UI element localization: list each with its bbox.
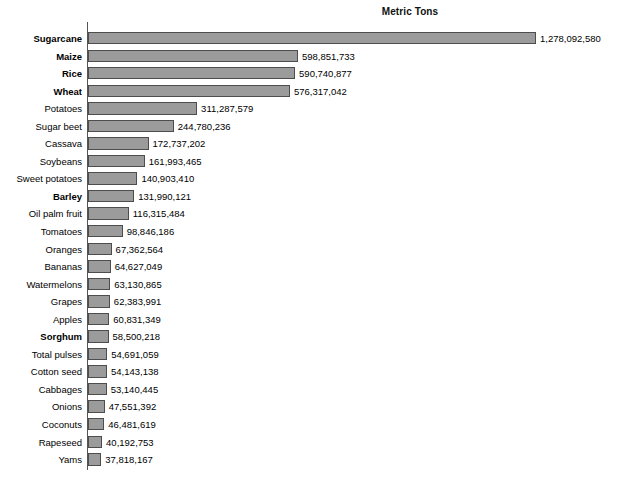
bar-value-label: 311,287,579 <box>201 102 253 115</box>
bar <box>88 436 102 448</box>
bar-value-label: 576,317,042 <box>294 85 347 98</box>
bar-row: Bananas64,627,049 <box>0 259 620 277</box>
bar <box>88 172 137 184</box>
bar-row: Apples60,831,349 <box>0 312 620 330</box>
bar-row: Onions47,551,392 <box>0 399 620 417</box>
bar-row: Tomatoes98,846,186 <box>0 224 620 242</box>
category-label: Sugarcane <box>0 32 82 45</box>
bar-row: Cotton seed54,143,138 <box>0 364 620 382</box>
bar <box>88 243 112 255</box>
bar <box>88 383 107 395</box>
bar-row: Rapeseed40,192,753 <box>0 435 620 453</box>
bar <box>88 295 110 307</box>
bar-row: Rice590,740,877 <box>0 66 620 84</box>
bar-value-label: 40,192,753 <box>106 436 154 449</box>
bar-row: Oranges67,362,564 <box>0 242 620 260</box>
category-label: Soybeans <box>0 155 82 168</box>
bar-row: Sorghum58,500,218 <box>0 329 620 347</box>
bar-row: Watermelons63,130,865 <box>0 277 620 295</box>
category-label: Barley <box>0 190 82 203</box>
category-label: Cabbages <box>0 383 82 396</box>
bar-row: Sweet potatoes140,903,410 <box>0 171 620 189</box>
bar-value-label: 54,691,059 <box>111 348 159 361</box>
bar-value-label: 1,278,092,580 <box>540 32 601 45</box>
bar-row: Coconuts46,481,619 <box>0 417 620 435</box>
bar <box>88 85 290 97</box>
bar-row: Sugar beet244,780,236 <box>0 119 620 137</box>
bar-value-label: 131,990,121 <box>138 190 191 203</box>
bar-value-label: 598,851,733 <box>302 50 355 63</box>
category-label: Yams <box>0 453 82 466</box>
plot-area: Sugarcane1,278,092,580Maize598,851,733Ri… <box>0 31 620 470</box>
bar-row: Barley131,990,121 <box>0 189 620 207</box>
category-label: Cotton seed <box>0 365 82 378</box>
chart-title: Metric Tons <box>300 6 520 17</box>
category-label: Rice <box>0 67 82 80</box>
category-label: Oranges <box>0 243 82 256</box>
bar-value-label: 172,737,202 <box>153 137 206 150</box>
category-label: Sorghum <box>0 330 82 343</box>
bar <box>88 190 134 202</box>
bar-value-label: 58,500,218 <box>113 330 161 343</box>
category-label: Wheat <box>0 85 82 98</box>
bar <box>88 102 197 114</box>
bar-row: Wheat576,317,042 <box>0 84 620 102</box>
bar <box>88 348 107 360</box>
bar-value-label: 53,140,445 <box>111 383 159 396</box>
bar-value-label: 98,846,186 <box>127 225 175 238</box>
category-label: Apples <box>0 313 82 326</box>
category-label: Watermelons <box>0 278 82 291</box>
bar-value-label: 140,903,410 <box>141 172 194 185</box>
bar <box>88 453 101 465</box>
bar-value-label: 590,740,877 <box>299 67 352 80</box>
category-label: Oil palm fruit <box>0 207 82 220</box>
bar-value-label: 60,831,349 <box>113 313 161 326</box>
bar-row: Cassava172,737,202 <box>0 136 620 154</box>
bar-row: Cabbages53,140,445 <box>0 382 620 400</box>
bar <box>88 400 105 412</box>
bar <box>88 278 110 290</box>
bar <box>88 155 145 167</box>
bar-row: Oil palm fruit116,315,484 <box>0 206 620 224</box>
bar-row: Yams37,818,167 <box>0 452 620 470</box>
bar-row: Maize598,851,733 <box>0 49 620 67</box>
category-label: Sweet potatoes <box>0 172 82 185</box>
bar <box>88 260 111 272</box>
bar <box>88 50 298 62</box>
bar <box>88 207 129 219</box>
bar-value-label: 37,818,167 <box>105 453 153 466</box>
bar-value-label: 161,993,465 <box>149 155 202 168</box>
bar <box>88 313 109 325</box>
bar <box>88 225 123 237</box>
bar <box>88 32 536 44</box>
bar-row: Potatoes311,287,579 <box>0 101 620 119</box>
bar <box>88 137 149 149</box>
category-label: Tomatoes <box>0 225 82 238</box>
bar-value-label: 62,383,991 <box>114 295 162 308</box>
bar-value-label: 46,481,619 <box>108 418 156 431</box>
bar <box>88 330 109 342</box>
bar-value-label: 244,780,236 <box>178 120 231 133</box>
category-label: Bananas <box>0 260 82 273</box>
category-label: Cassava <box>0 137 82 150</box>
bar-row: Soybeans161,993,465 <box>0 154 620 172</box>
category-label: Sugar beet <box>0 120 82 133</box>
category-label: Grapes <box>0 295 82 308</box>
bar <box>88 418 104 430</box>
bar-value-label: 64,627,049 <box>115 260 163 273</box>
bar-row: Grapes62,383,991 <box>0 294 620 312</box>
bar-chart: Metric Tons Sugarcane1,278,092,580Maize5… <box>0 0 620 477</box>
bar-value-label: 47,551,392 <box>109 400 157 413</box>
bar <box>88 67 295 79</box>
bar-value-label: 63,130,865 <box>114 278 162 291</box>
bar-value-label: 54,143,138 <box>111 365 159 378</box>
category-label: Coconuts <box>0 418 82 431</box>
bar <box>88 365 107 377</box>
bar-row: Total pulses54,691,059 <box>0 347 620 365</box>
category-label: Total pulses <box>0 348 82 361</box>
bar-value-label: 116,315,484 <box>133 207 185 220</box>
category-label: Maize <box>0 50 82 63</box>
bar <box>88 120 174 132</box>
category-label: Rapeseed <box>0 436 82 449</box>
bar-row: Sugarcane1,278,092,580 <box>0 31 620 49</box>
